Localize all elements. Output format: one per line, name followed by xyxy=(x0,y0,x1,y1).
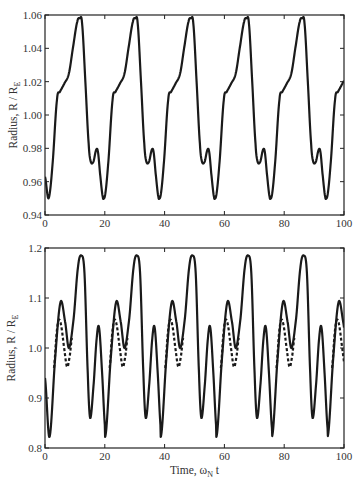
y-tick-label: 1.2 xyxy=(28,242,42,254)
y-tick-label: 1.00 xyxy=(23,109,43,121)
y-tick-label: 0.8 xyxy=(28,442,42,454)
series-solid-line xyxy=(45,17,344,199)
y-tick-label: 1.06 xyxy=(23,9,43,21)
y-tick-label: 0.96 xyxy=(23,176,43,188)
x-tick-label: 60 xyxy=(219,450,231,462)
y-tick-label: 0.98 xyxy=(23,142,43,154)
x-tick-label: 20 xyxy=(99,450,111,462)
series-solid-line xyxy=(45,255,344,437)
x-tick-label: 0 xyxy=(42,450,48,462)
y-tick-label: 0.9 xyxy=(28,392,42,404)
x-tick-label: 100 xyxy=(336,217,353,229)
top-panel: 0204060801000.940.960.981.001.021.041.06… xyxy=(7,9,353,229)
y-tick-label: 1.0 xyxy=(28,342,42,354)
x-tick-label: 80 xyxy=(279,450,291,462)
figure: 0204060801000.940.960.981.001.021.041.06… xyxy=(0,0,359,485)
x-tick-label: 80 xyxy=(279,217,291,229)
y-tick-label: 0.94 xyxy=(23,209,43,221)
y-axis-label: Radius, R / RE xyxy=(5,314,20,381)
x-tick-label: 60 xyxy=(219,217,231,229)
y-axis-label: Radius, R / RE xyxy=(7,81,22,148)
x-tick-label: 0 xyxy=(42,217,48,229)
y-tick-label: 1.1 xyxy=(28,292,42,304)
x-tick-label: 40 xyxy=(159,217,171,229)
x-tick-label: 20 xyxy=(99,217,111,229)
bottom-panel: 0204060801000.80.91.01.11.2Radius, R / R… xyxy=(5,242,353,479)
y-tick-label: 1.04 xyxy=(23,42,43,54)
y-tick-label: 1.02 xyxy=(23,76,42,88)
x-tick-label: 40 xyxy=(159,450,171,462)
x-tick-label: 100 xyxy=(336,450,353,462)
x-axis-label: Time, ωN t xyxy=(170,464,220,479)
